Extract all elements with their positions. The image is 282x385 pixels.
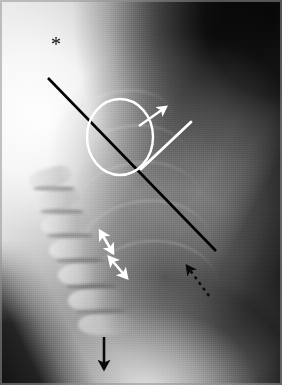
- white-circle-marker: [87, 99, 153, 175]
- white-oblique-line: [141, 122, 191, 169]
- black-dashed-arrow-up-left: [187, 266, 209, 296]
- black-diagonal-line: [48, 78, 216, 251]
- annotation-overlay: [0, 0, 282, 385]
- xray-figure: *: [0, 0, 282, 385]
- white-double-arrow-lower: [109, 257, 127, 278]
- asterisk-marker: *: [51, 34, 61, 54]
- white-double-arrow-upper: [100, 231, 113, 253]
